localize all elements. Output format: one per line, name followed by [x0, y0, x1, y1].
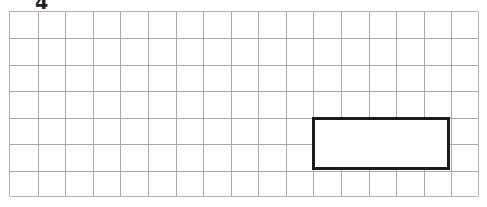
grid-line-vertical	[176, 12, 177, 196]
grid-line-vertical	[120, 12, 121, 196]
grid-line-vertical	[38, 12, 39, 196]
grid-line-vertical	[258, 12, 259, 196]
worksheet-canvas: 4	[0, 0, 487, 207]
grid-line-vertical	[203, 12, 204, 196]
grid-line-vertical	[286, 12, 287, 196]
grid-line-horizontal	[10, 38, 478, 39]
grid-line-horizontal	[10, 65, 478, 66]
grid-line-horizontal	[10, 91, 478, 92]
grid-line-horizontal	[10, 196, 478, 197]
drawn-rectangle[interactable]	[312, 117, 450, 170]
grid-line-vertical	[93, 12, 94, 196]
grid-line-vertical	[478, 12, 479, 196]
grid-line-vertical	[148, 12, 149, 196]
grid-line-vertical	[65, 12, 66, 196]
grid-line-horizontal	[10, 171, 478, 172]
grid-line-vertical	[231, 12, 232, 196]
grid-line-vertical	[451, 12, 452, 196]
